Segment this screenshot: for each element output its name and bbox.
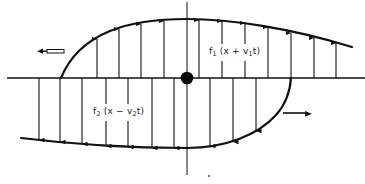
wave-2-direction-arrow-icon	[283, 111, 312, 117]
wave-2-label: f2 (x − v2t)	[93, 106, 144, 119]
wave-1-label: f1 (x + v1t)	[209, 46, 260, 59]
wave-2-arg-open: (x − v	[101, 106, 133, 116]
origin-point	[181, 72, 194, 85]
wave-1-direction-arrow-icon	[37, 49, 64, 54]
wave-1-arg-close: t)	[253, 46, 260, 56]
wave-superposition-diagram	[0, 0, 365, 184]
wave-1-arg-open: (x + v	[217, 46, 249, 56]
wave-2-displacement-arrows	[39, 78, 256, 148]
wave-2-curve	[21, 78, 291, 148]
wave-2-arg-close: t)	[137, 106, 144, 116]
page-mark	[208, 175, 210, 177]
